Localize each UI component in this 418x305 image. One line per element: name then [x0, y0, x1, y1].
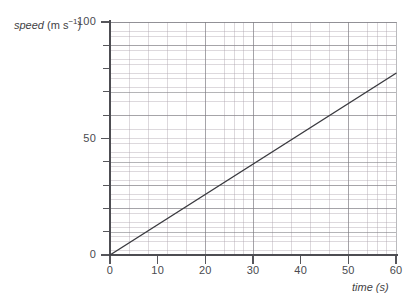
y-axis-tick-80 — [103, 68, 109, 69]
x-axis-minor-tick-46 — [329, 256, 330, 259]
y-axis-tick-10 — [103, 231, 109, 232]
plot-area-graph-paper — [110, 22, 396, 255]
x-axis-minor-tick-52 — [357, 256, 358, 259]
y-axis-title-unit: (m s−1) — [47, 19, 81, 31]
x-axis-minor-tick-2 — [119, 256, 120, 259]
x-axis-label-20: 20 — [185, 264, 225, 276]
x-axis-minor-tick-22 — [214, 256, 215, 259]
x-axis-label-50: 50 — [328, 264, 368, 276]
x-axis-minor-tick-42 — [310, 256, 311, 259]
y-axis-tick-20 — [103, 208, 109, 209]
x-axis-minor-tick-34 — [271, 256, 272, 259]
y-axis-title-quantity: speed — [14, 19, 44, 31]
x-axis-tick-40 — [300, 256, 301, 264]
x-axis-minor-tick-56 — [376, 256, 377, 259]
plot-top-edge — [110, 22, 397, 23]
y-axis-unit-exponent: −1 — [68, 17, 77, 26]
x-axis-label-10: 10 — [138, 264, 178, 276]
x-axis-label-60: 60 — [376, 264, 416, 276]
x-axis-minor-tick-8 — [148, 256, 149, 259]
y-axis-unit-prefix: (m s — [47, 19, 68, 31]
x-axis-tick-30 — [252, 256, 253, 264]
x-axis-minor-tick-32 — [262, 256, 263, 259]
x-axis-minor-tick-26 — [233, 256, 234, 259]
x-axis-minor-tick-12 — [167, 256, 168, 259]
y-axis-tick-100 — [101, 21, 109, 22]
y-axis-tick-0 — [101, 254, 109, 255]
x-axis-tick-60 — [395, 256, 396, 264]
x-axis-minor-tick-18 — [195, 256, 196, 259]
y-axis-tick-50 — [101, 138, 109, 139]
y-axis-label-0: 0 — [90, 248, 96, 260]
x-axis-minor-tick-48 — [338, 256, 339, 259]
y-axis-line — [109, 20, 111, 257]
x-axis-label-40: 40 — [281, 264, 321, 276]
x-axis-tick-20 — [205, 256, 206, 264]
x-axis-minor-tick-58 — [386, 256, 387, 259]
plot-right-edge — [396, 22, 397, 255]
x-axis-tick-50 — [348, 256, 349, 264]
x-axis-minor-tick-28 — [243, 256, 244, 259]
x-axis-tick-10 — [157, 256, 158, 264]
x-axis-minor-tick-44 — [319, 256, 320, 259]
y-axis-tick-30 — [103, 185, 109, 186]
x-axis-label-30: 30 — [233, 264, 273, 276]
x-axis-minor-tick-54 — [367, 256, 368, 259]
x-axis-minor-tick-16 — [186, 256, 187, 259]
y-axis-tick-70 — [103, 91, 109, 92]
x-axis-minor-tick-24 — [224, 256, 225, 259]
speed-time-graph-figure: 0501000102030405060 speed (m s−1) time (… — [0, 0, 418, 305]
x-axis-minor-tick-6 — [138, 256, 139, 259]
x-axis-minor-tick-4 — [128, 256, 129, 259]
y-axis-label-50: 50 — [83, 132, 96, 144]
x-axis-tick-0 — [109, 256, 110, 264]
x-axis-minor-tick-14 — [176, 256, 177, 259]
y-axis-unit-suffix: ) — [78, 19, 82, 31]
x-axis-title: time (s) — [352, 281, 389, 293]
x-axis-minor-tick-36 — [281, 256, 282, 259]
y-axis-tick-90 — [103, 45, 109, 46]
y-axis-title: speed (m s−1) — [14, 17, 81, 31]
x-axis-minor-tick-38 — [291, 256, 292, 259]
y-axis-tick-60 — [103, 115, 109, 116]
x-axis-label-0: 0 — [90, 264, 130, 276]
y-axis-tick-40 — [103, 161, 109, 162]
